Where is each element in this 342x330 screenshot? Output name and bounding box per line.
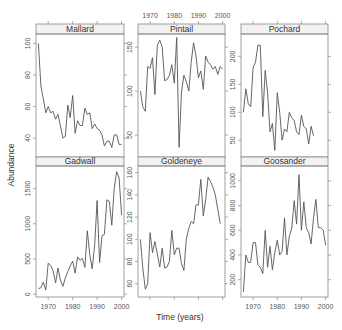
series-line xyxy=(38,44,121,148)
y-tick-label: 1000 xyxy=(24,216,31,232)
panel-pintail: Pintail501001501970198019902000 xyxy=(126,12,230,157)
panel-title: Gadwall xyxy=(65,156,96,166)
y-tick-label: 500 xyxy=(24,253,31,265)
y-tick-label: 120 xyxy=(126,211,133,223)
y-tick-label: 50 xyxy=(229,136,236,144)
y-tick-label: 100 xyxy=(126,85,133,97)
plot-frame xyxy=(36,34,124,157)
y-tick-label: 80 xyxy=(126,257,133,265)
lattice-chart: Mallard406080100Pintail50100150197019801… xyxy=(0,0,342,330)
y-tick-label: 60 xyxy=(24,103,31,111)
panel-title: Pintail xyxy=(170,24,193,34)
y-tick-label: 1000 xyxy=(229,173,236,189)
x-tick-label: 1990 xyxy=(294,303,310,310)
panel-title: Goosander xyxy=(263,156,305,166)
series-line xyxy=(140,177,220,289)
x-tick-label: 1970 xyxy=(245,303,261,310)
y-tick-label: 150 xyxy=(229,78,236,90)
series-line xyxy=(140,38,222,148)
series-line xyxy=(38,172,121,290)
panel-pochard: Pochard50100150200 xyxy=(229,21,331,157)
plot-frame xyxy=(241,34,328,157)
y-tick-label: 40 xyxy=(24,134,31,142)
y-tick-label: 60 xyxy=(126,280,133,288)
x-tick-label: 2000 xyxy=(318,303,334,310)
x-tick-label: 1980 xyxy=(269,303,285,310)
panel-goldeneye: Goldeneye6080100120140160 xyxy=(126,156,228,300)
panel-mallard: Mallard406080100 xyxy=(24,21,127,157)
y-tick-label: 80 xyxy=(24,71,31,79)
x-tick-label: 1980 xyxy=(65,303,81,310)
y-tick-label: 100 xyxy=(24,38,31,50)
y-tick-label: 400 xyxy=(229,249,236,261)
plot-frame xyxy=(36,166,124,297)
y-tick-label: 150 xyxy=(126,41,133,53)
x-tick-label: 1970 xyxy=(142,12,158,19)
x-tick-label: 1990 xyxy=(89,303,105,310)
y-tick-label: 1500 xyxy=(24,181,31,197)
panel-title: Pochard xyxy=(269,24,301,34)
y-tick-label: 0 xyxy=(24,292,31,296)
y-tick-label: 800 xyxy=(229,200,236,212)
x-tick-label: 2000 xyxy=(114,303,130,310)
y-tick-label: 160 xyxy=(126,167,133,179)
y-tick-label: 50 xyxy=(126,131,133,139)
x-tick-label: 1990 xyxy=(191,12,207,19)
y-tick-label: 200 xyxy=(229,274,236,286)
x-axis-title: Time (years) xyxy=(156,312,204,322)
series-line xyxy=(243,45,313,150)
plot-frame xyxy=(241,166,328,297)
panel-title: Goldeneye xyxy=(161,156,202,166)
y-tick-label: 200 xyxy=(229,50,236,62)
panel-goosander: Goosander2004006008001000197019801990200… xyxy=(229,156,333,310)
y-tick-label: 100 xyxy=(229,106,236,118)
series-line xyxy=(243,175,325,292)
panel-gadwall: Gadwall0500100015001970198019902000 xyxy=(24,156,129,310)
x-tick-label: 1970 xyxy=(40,303,56,310)
y-tick-label: 140 xyxy=(126,189,133,201)
x-tick-label: 1980 xyxy=(166,12,182,19)
y-tick-label: 100 xyxy=(126,233,133,245)
panel-title: Mallard xyxy=(66,24,94,34)
y-tick-label: 600 xyxy=(229,224,236,236)
y-axis-title: Abundance xyxy=(6,143,16,186)
x-tick-label: 2000 xyxy=(215,12,231,19)
